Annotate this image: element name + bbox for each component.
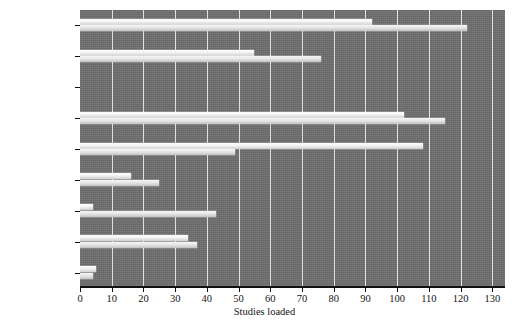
y-tick-mark-pac00093 xyxy=(75,149,80,150)
bar-pac00083-series-a xyxy=(80,173,131,179)
x-tick-mark-30 xyxy=(175,288,176,292)
x-tick-mark-120 xyxy=(461,288,462,292)
y-tick-mark-pac00094 xyxy=(75,118,80,119)
x-tick-mark-60 xyxy=(270,288,271,292)
bar-chart: 0102030405060708090100110120130pac00099p… xyxy=(0,0,529,326)
bar-pac00082-series-b xyxy=(80,211,216,217)
gridline-x-120 xyxy=(461,10,462,286)
x-tick-mark-40 xyxy=(207,288,208,292)
gridline-x-110 xyxy=(429,10,430,286)
bar-pac00082-series-a xyxy=(80,204,93,210)
y-tick-mark-pac00099 xyxy=(75,25,80,26)
x-tick-mark-20 xyxy=(143,288,144,292)
y-tick-mark-pac00082 xyxy=(75,211,80,212)
bar-pac00020-series-a xyxy=(80,266,96,272)
bar-pac00083-series-b xyxy=(80,180,159,186)
bar-pac00099-series-b xyxy=(80,25,467,31)
y-tick-mark-pac00098 xyxy=(75,56,80,57)
x-tick-mark-90 xyxy=(365,288,366,292)
x-axis-title: Studies loaded xyxy=(0,306,529,317)
x-tick-mark-10 xyxy=(112,288,113,292)
x-tick-mark-0 xyxy=(80,288,81,292)
y-tick-mark-pac00020 xyxy=(75,273,80,274)
bar-pac00098-series-a xyxy=(80,50,254,56)
gridline-x-130 xyxy=(492,10,493,286)
x-tick-mark-80 xyxy=(334,288,335,292)
bar-pac00093-series-b xyxy=(80,149,235,155)
bar-pac00098-series-b xyxy=(80,56,321,62)
y-tick-mark-pac00097 xyxy=(75,87,80,88)
bar-pac00020-series-b xyxy=(80,273,93,279)
x-tick-mark-130 xyxy=(492,288,493,292)
x-tick-mark-100 xyxy=(397,288,398,292)
bar-pac00094-series-b xyxy=(80,118,445,124)
bar-pac00099-series-a xyxy=(80,19,372,25)
bar-pac00081-series-a xyxy=(80,235,188,241)
x-tick-mark-70 xyxy=(302,288,303,292)
bar-pac00093-series-a xyxy=(80,143,423,149)
bar-pac00094-series-a xyxy=(80,112,404,118)
y-tick-mark-pac00081 xyxy=(75,242,80,243)
y-tick-mark-pac00083 xyxy=(75,180,80,181)
x-tick-mark-50 xyxy=(239,288,240,292)
x-tick-mark-110 xyxy=(429,288,430,292)
plot-area xyxy=(80,10,505,288)
bar-pac00081-series-b xyxy=(80,242,197,248)
x-tick-label-130: 130 xyxy=(472,293,512,305)
